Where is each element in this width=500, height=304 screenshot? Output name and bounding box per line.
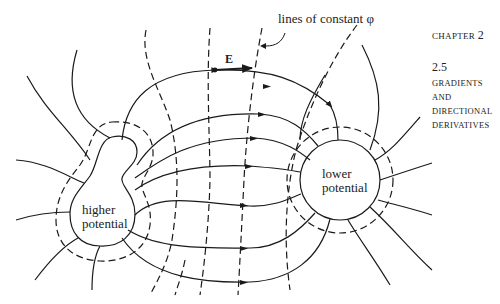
outer-field-lines-right (300, 45, 432, 285)
annotation-label: lines of constant φ (278, 12, 374, 26)
section-title-line: DIRECTIONAL (432, 104, 492, 118)
field-lines (122, 70, 338, 285)
chapter-heading: CHAPTER 2 (432, 28, 484, 43)
lower-potential-line-2: potential (322, 181, 368, 195)
chapter-word: CHAPTER (432, 31, 475, 41)
chapter-number: 2 (478, 28, 484, 42)
section-title-line: AND (432, 90, 492, 104)
section-title-line: DERIVATIVES (432, 118, 492, 132)
higher-potential-line-1: higher (82, 203, 128, 217)
lower-potential-label: lower potential (322, 167, 368, 195)
equipotential-lines (145, 25, 357, 295)
outer-field-lines-left (16, 50, 110, 290)
section-number: 2.5 (432, 60, 447, 75)
annotation-arrow (266, 33, 285, 46)
equipotential-left-inner (56, 122, 153, 261)
e-vector-label: E (225, 52, 233, 66)
lower-potential-line-1: lower (322, 167, 368, 181)
field-diagram (0, 0, 500, 304)
higher-potential-label: higher potential (82, 203, 128, 231)
section-title-line: GRADIENTS (432, 76, 492, 90)
higher-potential-line-2: potential (82, 217, 128, 231)
section-title: GRADIENTS AND DIRECTIONAL DERIVATIVES (432, 76, 492, 132)
